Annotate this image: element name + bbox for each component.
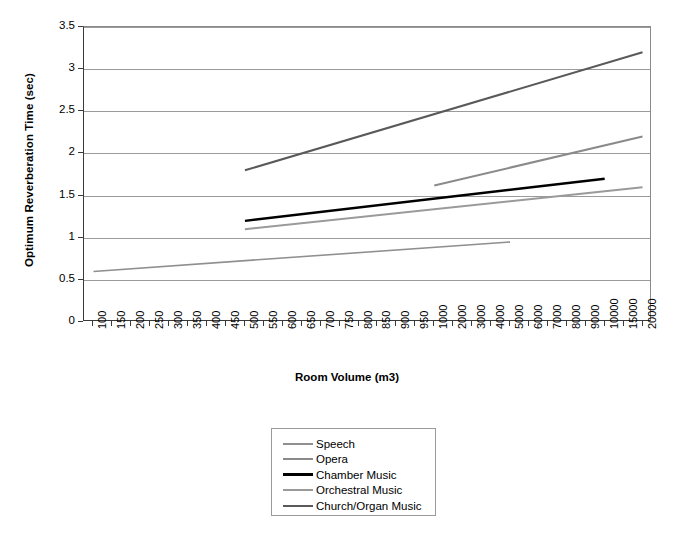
y-tick-label: 0 — [39, 314, 75, 326]
x-tick-label: 1000 — [437, 305, 449, 329]
x-tick-mark — [395, 321, 396, 326]
x-tick-label: 6000 — [532, 305, 544, 329]
x-tick-mark — [433, 321, 434, 326]
series-line — [245, 187, 643, 229]
y-tick-label: 1 — [39, 230, 75, 242]
y-axis-title: Optimum Reverberation Time (sec) — [20, 30, 38, 310]
legend-item[interactable]: Opera — [283, 452, 435, 468]
x-tick-label: 20000 — [646, 298, 658, 329]
series-lines — [84, 27, 652, 322]
x-tick-label: 700 — [324, 311, 336, 329]
x-tick-label: 800 — [362, 311, 374, 329]
legend-swatch — [283, 443, 313, 445]
y-tick-label: 2 — [39, 145, 75, 157]
legend-label: Chamber Music — [316, 469, 397, 481]
legend-item[interactable]: Orchestral Music — [283, 483, 435, 499]
x-tick-mark — [471, 321, 472, 326]
series-line — [93, 242, 510, 272]
x-tick-label: 350 — [191, 311, 203, 329]
x-tick-label: 9000 — [589, 305, 601, 329]
x-tick-mark — [585, 321, 586, 326]
x-tick-label: 2000 — [456, 305, 468, 329]
x-tick-mark — [528, 321, 529, 326]
x-tick-mark — [623, 321, 624, 326]
y-tick-mark — [78, 237, 83, 238]
y-tick-label: 1.5 — [39, 188, 75, 200]
y-tick-mark — [78, 152, 83, 153]
legend-swatch — [283, 489, 313, 491]
y-tick-mark — [78, 195, 83, 196]
x-tick-label: 5000 — [513, 305, 525, 329]
x-tick-label: 15000 — [627, 298, 639, 329]
x-tick-mark — [414, 321, 415, 326]
legend-swatch — [283, 458, 313, 460]
x-tick-label: 10000 — [608, 298, 620, 329]
y-tick-label: 3.5 — [39, 19, 75, 31]
y-tick-mark — [78, 279, 83, 280]
y-tick-mark — [78, 110, 83, 111]
x-tick-label: 4000 — [494, 305, 506, 329]
series-line — [434, 137, 642, 186]
x-tick-label: 7000 — [551, 305, 563, 329]
x-tick-mark — [339, 321, 340, 326]
chart-legend: SpeechOperaChamber MusicOrchestral Music… — [271, 428, 436, 516]
legend-label: Speech — [316, 438, 355, 450]
legend-label: Church/Organ Music — [316, 500, 421, 512]
x-tick-label: 650 — [305, 311, 317, 329]
x-tick-mark — [282, 321, 283, 326]
x-tick-mark — [111, 321, 112, 326]
x-axis-title: Room Volume (m3) — [0, 371, 694, 383]
x-tick-mark — [490, 321, 491, 326]
x-tick-mark — [547, 321, 548, 326]
y-tick-mark — [78, 26, 83, 27]
y-tick-label: 2.5 — [39, 103, 75, 115]
y-tick-label: 0.5 — [39, 272, 75, 284]
x-tick-label: 450 — [229, 311, 241, 329]
x-tick-label: 100 — [96, 311, 108, 329]
legend-item[interactable]: Chamber Music — [283, 467, 435, 483]
x-tick-label: 3000 — [475, 305, 487, 329]
series-line — [245, 52, 643, 170]
x-tick-mark — [566, 321, 567, 326]
x-tick-mark — [187, 321, 188, 326]
x-tick-mark — [604, 321, 605, 326]
x-tick-mark — [168, 321, 169, 326]
x-tick-label: 950 — [418, 311, 430, 329]
plot-area — [83, 26, 651, 321]
x-tick-label: 400 — [210, 311, 222, 329]
x-tick-mark — [206, 321, 207, 326]
y-tick-label: 3 — [39, 61, 75, 73]
x-tick-label: 750 — [343, 311, 355, 329]
x-tick-label: 600 — [286, 311, 298, 329]
x-tick-label: 850 — [380, 311, 392, 329]
chart-canvas: Optimum Reverberation Time (sec) 00.511.… — [0, 0, 694, 553]
x-tick-mark — [320, 321, 321, 326]
x-tick-label: 8000 — [570, 305, 582, 329]
y-tick-mark — [78, 68, 83, 69]
x-tick-mark — [244, 321, 245, 326]
x-tick-mark — [301, 321, 302, 326]
legend-label: Opera — [316, 453, 348, 465]
x-tick-mark — [92, 321, 93, 326]
x-tick-mark — [130, 321, 131, 326]
series-line — [245, 179, 605, 221]
x-tick-mark — [452, 321, 453, 326]
x-tick-mark — [263, 321, 264, 326]
x-tick-label: 550 — [267, 311, 279, 329]
legend-item[interactable]: Speech — [283, 436, 435, 452]
legend-swatch — [283, 505, 313, 507]
x-tick-label: 300 — [172, 311, 184, 329]
x-tick-label: 150 — [115, 311, 127, 329]
x-tick-label: 500 — [248, 311, 260, 329]
x-tick-mark — [358, 321, 359, 326]
legend-item[interactable]: Church/Organ Music — [283, 498, 435, 514]
x-tick-label: 250 — [153, 311, 165, 329]
x-tick-mark — [225, 321, 226, 326]
y-tick-mark — [78, 321, 83, 322]
x-tick-mark — [376, 321, 377, 326]
x-tick-label: 900 — [399, 311, 411, 329]
legend-swatch — [283, 473, 313, 476]
x-tick-label: 200 — [134, 311, 146, 329]
x-tick-mark — [642, 321, 643, 326]
x-tick-mark — [509, 321, 510, 326]
